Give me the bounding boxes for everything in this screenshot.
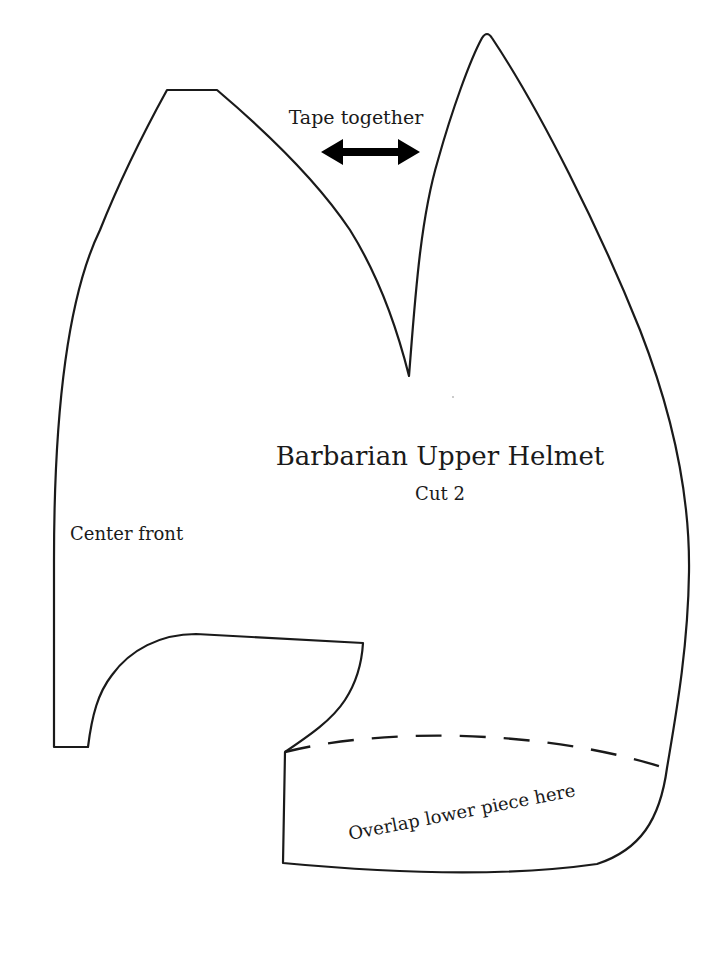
pattern-subtitle: Cut 2 <box>415 483 465 504</box>
center-front-label: Center front <box>70 523 184 544</box>
overlap-dashed-line <box>285 736 665 768</box>
tape-together-label: Tape together <box>289 106 425 128</box>
pattern-title: Barbarian Upper Helmet <box>276 441 605 471</box>
pattern-canvas: Tape together Barbarian Upper Helmet Cut… <box>0 0 704 972</box>
overlap-label: Overlap lower piece here <box>346 779 577 844</box>
tape-together-arrow-icon <box>321 139 420 165</box>
stray-dot <box>452 396 454 398</box>
